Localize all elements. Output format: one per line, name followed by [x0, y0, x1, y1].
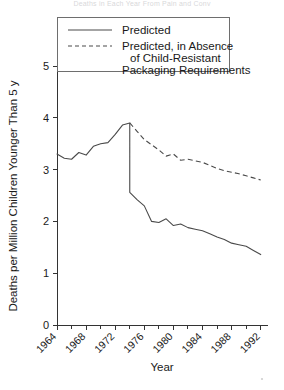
y-tick-label: 2 — [43, 215, 49, 227]
y-tick-label: 4 — [43, 112, 49, 124]
x-tick-label: 1976 — [121, 330, 146, 355]
figure-container: Deaths in Each Year From Pain and Conv 0… — [0, 0, 284, 390]
y-axis-ticks — [53, 66, 57, 325]
x-axis-tick-labels: 19641968197219761980198419881992 — [33, 330, 262, 355]
legend-label-1-line-1: of Child-Resistant — [130, 52, 222, 64]
x-tick-label: 1972 — [92, 330, 117, 355]
legend-label-0-line-0: Predicted — [122, 24, 171, 36]
x-tick-label: 1992 — [237, 330, 262, 355]
line-chart: 012345 19641968197219761980198419881992 … — [0, 0, 284, 390]
x-tick-label: 1968 — [63, 330, 88, 355]
y-tick-label: 1 — [43, 267, 49, 279]
y-tick-label: 3 — [43, 164, 49, 176]
x-tick-label: 1964 — [33, 330, 58, 355]
y-axis-title: Deaths per Million Children Younger Than… — [7, 80, 19, 311]
y-tick-label: 0 — [43, 319, 49, 331]
x-tick-label: 1988 — [208, 330, 233, 355]
x-tick-label: 1984 — [179, 330, 204, 355]
x-tick-label: 1980 — [150, 330, 175, 355]
chart-legend: Predicted Predicted, in Absence of Child… — [58, 18, 251, 77]
legend-label-1-line-2: Packaging Requirements — [122, 64, 251, 76]
x-axis-title: Year — [150, 361, 173, 373]
y-axis-tick-labels: 012345 — [43, 60, 49, 331]
legend-label-1-line-0: Predicted, in Absence — [122, 40, 233, 52]
chart-axes — [57, 66, 268, 325]
scan-speck — [261, 378, 263, 380]
x-axis-ticks — [57, 325, 261, 330]
series-line-predicted-no-packaging — [130, 123, 261, 180]
y-tick-label: 5 — [43, 60, 49, 72]
series-line-predicted — [57, 123, 261, 255]
